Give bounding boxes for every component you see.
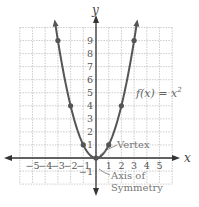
y-tick-label: 4 (87, 100, 93, 111)
y-tick-label: 3 (87, 113, 93, 124)
y-tick-label: 9 (87, 35, 93, 46)
data-point (106, 142, 111, 147)
data-point (132, 38, 137, 43)
y-axis-down-arrow-icon (93, 188, 99, 196)
axis-of-symmetry-label-line2: Symmetry (111, 182, 163, 193)
data-point (55, 38, 60, 43)
vertex-point (93, 155, 98, 160)
y-tick-label: 6 (87, 74, 93, 85)
y-tick-label: 1 (87, 139, 93, 150)
y-tick-label: 5 (87, 87, 93, 98)
y-tick-label: 8 (87, 48, 93, 59)
data-point (81, 142, 86, 147)
y-tick-label: 2 (87, 126, 93, 137)
curve-right-arrow-icon (133, 19, 139, 26)
x-axis-right-arrow-icon (172, 155, 180, 161)
x-tick-label: 5 (156, 160, 162, 171)
parabola-chart: −5−4−3−2−112345123456789−1 y x f(x) = x2… (0, 0, 199, 207)
curve-left-arrow-icon (53, 19, 59, 26)
function-label: f(x) = x2 (135, 86, 182, 100)
vertex-label: Vertex (116, 139, 150, 150)
data-point (68, 103, 73, 108)
y-tick-label: −1 (79, 166, 93, 177)
y-tick-label: 7 (87, 61, 93, 72)
data-point (119, 103, 124, 108)
function-label-exponent: 2 (176, 86, 182, 94)
function-label-base: f(x) = x (135, 87, 178, 100)
y-axis-label: y (91, 3, 99, 17)
x-axis-left-arrow-icon (4, 155, 12, 161)
axis-of-symmetry-label-line1: Axis of (110, 170, 146, 181)
x-axis-label: x (184, 151, 191, 165)
